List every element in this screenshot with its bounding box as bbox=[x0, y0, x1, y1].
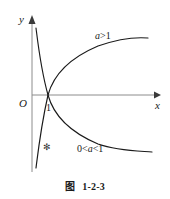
curve-growth-relation: >1 bbox=[100, 30, 111, 41]
curve-label-a-greater-than-one: a>1 bbox=[95, 31, 111, 41]
x-tick-label-one: 1 bbox=[46, 103, 51, 113]
curve-a-between-zero-and-one bbox=[36, 28, 152, 152]
y-axis-arrowhead bbox=[29, 15, 36, 24]
curve-decay-suffix: <1 bbox=[93, 143, 104, 154]
x-axis-label: x bbox=[155, 100, 160, 111]
figure-caption: 图1-2-3 bbox=[0, 178, 170, 193]
curve-decay-prefix: 0< bbox=[77, 143, 88, 154]
asterisk-marker: ✻ bbox=[43, 143, 51, 152]
origin-label: O bbox=[19, 98, 27, 109]
figure-caption-number: 1-2-3 bbox=[82, 181, 105, 192]
figure-caption-label: 图 bbox=[65, 181, 75, 192]
figure-container: y x O 1 a>1 0<a<1 ✻ 图1-2-3 bbox=[0, 0, 170, 199]
y-axis-label: y bbox=[19, 14, 24, 25]
curve-label-a-between-zero-and-one: 0<a<1 bbox=[77, 144, 103, 154]
x-axis-arrowhead bbox=[154, 92, 161, 99]
